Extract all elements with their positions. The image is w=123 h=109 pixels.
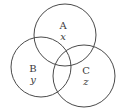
- set-variable-x: x: [60, 31, 66, 42]
- set-label-a: A: [58, 20, 67, 31]
- venn-diagram: A x B y C z: [0, 0, 123, 109]
- set-variable-y: y: [29, 74, 36, 85]
- circle-b: [11, 37, 71, 97]
- set-label-c: C: [82, 65, 90, 76]
- set-variable-z: z: [82, 76, 89, 87]
- set-label-b: B: [29, 63, 36, 74]
